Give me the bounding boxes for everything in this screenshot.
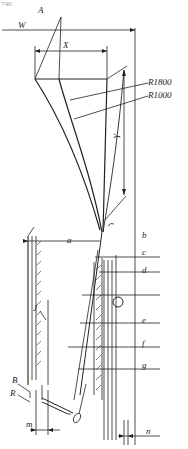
corner-text: 740 [1, 0, 12, 8]
label-g: g [142, 361, 147, 370]
label-a-upper: A [38, 6, 44, 15]
label-b: b [142, 231, 147, 240]
label-x: X [63, 41, 69, 50]
b-leader [18, 384, 30, 392]
label-r1000: R1000 [148, 91, 172, 100]
j-leader [40, 311, 46, 320]
label-c: c [142, 248, 146, 257]
r1800-leader [70, 83, 148, 100]
label-y: Y [113, 134, 122, 139]
label-a: a [67, 236, 72, 245]
label-e: e [142, 316, 146, 325]
label-f: f [142, 339, 145, 348]
curve-r1800 [35, 79, 100, 230]
circle-feature [113, 297, 123, 307]
slanted-rod [80, 232, 102, 395]
a-leader-1 [35, 17, 61, 79]
label-r1800: R1800 [148, 78, 172, 87]
hatching-right [96, 265, 101, 390]
label-w: W [18, 21, 26, 30]
tip-ellipse [72, 412, 82, 424]
label-b-upper: B [12, 376, 18, 385]
hatching-left [37, 241, 41, 365]
technical-diagram: 740 A W X R1800 R1000 Y a b c d e f g J … [0, 0, 188, 449]
label-r: R [10, 389, 16, 398]
diagram-drawing [0, 0, 188, 449]
label-m: m [26, 420, 33, 429]
label-j: J [33, 304, 37, 313]
label-d: d [142, 266, 147, 275]
label-n: n [146, 427, 151, 436]
r1000-leader [74, 96, 148, 119]
a-leader-2 [59, 17, 61, 79]
curve-r1000 [59, 79, 102, 232]
r-leader [18, 395, 30, 402]
